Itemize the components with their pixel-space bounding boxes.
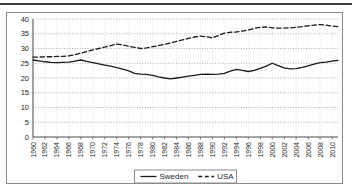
y-tick-label: 0 [25,133,29,142]
y-tick-label: 30 [21,44,29,53]
x-tick-label: 1984 [173,142,180,158]
page-top-rule [0,3,352,5]
x-axis-tick-labels: 1960196219641966196819701972197419761978… [30,142,336,158]
x-tick-label: 1980 [149,142,156,158]
x-tick-label: 1992 [221,142,228,158]
x-tick-label: 2008 [317,142,324,158]
y-tick-label: 25 [21,59,29,68]
x-tick-label: 1968 [77,142,84,158]
data-series-group [33,25,338,79]
y-gridlines [33,19,338,122]
legend-label-sweden: Sweden [159,172,188,181]
y-axis-tick-labels: 0510152025303540 [21,15,29,142]
series-line-usa [33,25,338,57]
x-tick-label: 1998 [257,142,264,158]
x-tick-label: 1966 [65,142,72,158]
x-tick-label: 2006 [305,142,312,158]
x-tick-label: 1996 [245,142,252,158]
x-tick-label: 1962 [41,142,48,158]
x-tick-label: 1990 [209,142,216,158]
x-tick-label: 1976 [125,142,132,158]
x-tick-label: 1964 [53,142,60,158]
x-tick-label: 1972 [101,142,108,158]
x-tick-label: 1994 [233,142,240,158]
x-tick-label: 1982 [161,142,168,158]
y-tick-label: 10 [21,103,29,112]
chart-frame: 0510152025303540 19601962196419661968197… [6,12,343,184]
chart-legend: SwedenUSA [134,170,236,183]
y-tick-label: 20 [21,74,29,83]
x-tick-label: 1978 [137,142,144,158]
y-tick-label: 40 [21,15,29,24]
x-tick-label: 2000 [269,142,276,158]
y-tick-label: 35 [21,29,29,38]
x-tick-label: 1960 [30,142,37,158]
legend-label-usa: USA [217,172,234,181]
x-tick-label: 1974 [113,142,120,158]
x-tick-label: 1988 [197,142,204,158]
x-tick-label: 1986 [185,142,192,158]
y-tick-label: 5 [25,118,29,127]
line-chart-plot: 0510152025303540 19601962196419661968197… [7,13,342,183]
x-tick-label: 1970 [89,142,96,158]
chart-figure: 0510152025303540 19601962196419661968197… [0,0,352,193]
x-tick-label: 2002 [281,142,288,158]
series-line-sweden [33,60,338,79]
x-tick-label: 2010 [329,142,336,158]
y-tick-label: 15 [21,88,29,97]
x-tick-label: 2004 [293,142,300,158]
